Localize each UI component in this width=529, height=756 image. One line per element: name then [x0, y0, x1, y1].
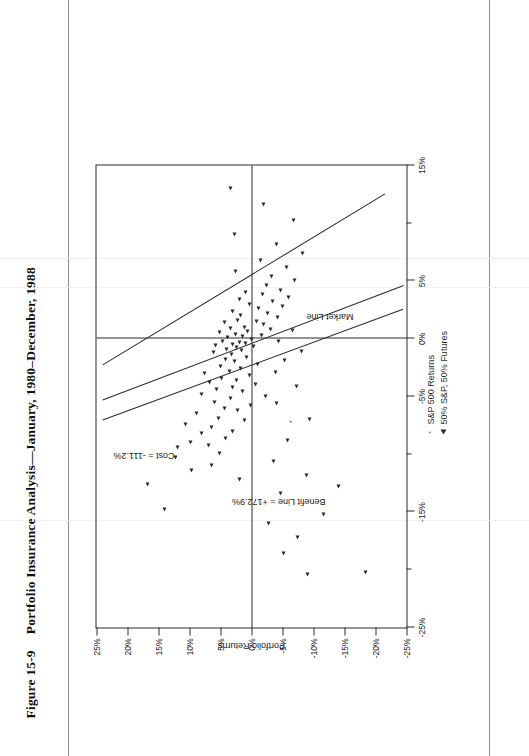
- data-point-marker: [299, 349, 303, 353]
- data-point-marker: [183, 422, 187, 426]
- data-point-marker: [145, 482, 149, 486]
- data-point-marker: [237, 340, 241, 344]
- legend-item-5050: 50% S&P, 50% Futures: [436, 331, 449, 440]
- x-axis-tick-label: 5%: [416, 274, 426, 286]
- y-axis-tick: [406, 627, 407, 635]
- data-point-marker: [300, 251, 304, 255]
- chart-annotation: Cost = -111.2%: [113, 450, 174, 460]
- x-axis-tick: [406, 164, 414, 165]
- data-point-marker: [206, 443, 210, 447]
- legend-label-5050: 50% S&P, 50% Futures: [438, 331, 448, 424]
- y-axis-zero-line: [251, 165, 252, 627]
- y-axis-tick: [127, 627, 128, 635]
- y-axis-tick: [220, 627, 221, 635]
- figure-number: Figure 15-9: [22, 650, 37, 718]
- data-point-marker: [253, 382, 257, 386]
- data-point-marker: [269, 274, 273, 278]
- data-point-marker: [321, 512, 325, 516]
- data-point-marker: [202, 371, 206, 375]
- data-point-marker: [238, 313, 242, 317]
- data-point-marker: [295, 535, 299, 539]
- data-point-marker: [223, 436, 227, 440]
- data-point-marker: [245, 329, 249, 333]
- data-point-marker: [280, 304, 284, 308]
- data-point-marker: [260, 292, 264, 296]
- data-point-marker: [363, 570, 367, 574]
- data-point-marker: [216, 416, 220, 420]
- data-point-marker: [240, 389, 244, 393]
- data-point-marker: [237, 297, 241, 301]
- data-point-marker: [249, 337, 253, 341]
- chart-legend: S&P 500 Returns 50% S&P, 50% Futures: [423, 331, 449, 440]
- data-point-marker: [276, 339, 280, 343]
- y-axis-tick: [251, 627, 252, 635]
- data-point-marker: [213, 343, 217, 347]
- data-point-marker: [235, 318, 239, 322]
- y-axis-tick-label: 20%: [122, 638, 132, 655]
- chart-annotation: Benefit Line = +172.9%: [232, 496, 326, 506]
- x-axis-tick-label: -15%: [416, 502, 426, 522]
- figure-caption: Figure 15-9Portfolio Insurance Analysis—…: [22, 267, 38, 718]
- data-point-marker: [237, 477, 241, 481]
- data-point-marker: [199, 431, 203, 435]
- data-point-marker: [248, 403, 252, 407]
- data-point-marker: [251, 344, 255, 348]
- x-axis-tick: [406, 337, 414, 338]
- data-point-marker: [220, 339, 224, 343]
- data-point-marker: [214, 387, 218, 391]
- data-point-marker: [256, 306, 260, 310]
- data-point-marker: [270, 299, 274, 303]
- data-point-marker: [199, 392, 203, 396]
- data-point-marker: [230, 342, 234, 346]
- legend-label-sp500: S&P 500 Returns: [425, 355, 435, 424]
- data-point-marker: [232, 232, 236, 236]
- data-point-marker: [223, 357, 227, 361]
- data-point-marker: [289, 421, 291, 423]
- data-point-marker: [307, 417, 311, 421]
- data-point-marker: [217, 451, 221, 455]
- legend-item-sp500: S&P 500 Returns: [423, 331, 436, 440]
- data-point-marker: [268, 327, 272, 331]
- data-point-marker: [233, 332, 237, 336]
- fit-line-market: [102, 193, 385, 365]
- data-point-marker: [218, 364, 222, 368]
- data-point-marker: [242, 325, 246, 329]
- data-point-marker: [230, 429, 234, 433]
- chart-annotation: Market Line: [306, 311, 353, 321]
- data-point-marker: [259, 333, 263, 337]
- data-point-marker: [285, 438, 289, 442]
- data-point-marker: [271, 459, 275, 463]
- data-point-marker: [282, 358, 286, 362]
- figure-rotated-container: Figure 15-9Portfolio Insurance Analysis—…: [0, 0, 529, 756]
- y-axis-tick-label: -10%: [308, 638, 318, 658]
- data-point-marker: [233, 269, 237, 273]
- data-point-marker: [211, 350, 215, 354]
- data-point-marker: [258, 258, 262, 262]
- data-point-marker: [232, 359, 236, 363]
- triangle-marker-icon: [440, 424, 446, 440]
- dot-marker-icon: [429, 424, 431, 440]
- data-point-marker: [292, 279, 296, 283]
- data-point-marker: [229, 352, 233, 356]
- data-point-marker: [247, 302, 251, 306]
- data-point-marker: [228, 396, 232, 400]
- data-point-marker: [261, 202, 265, 206]
- y-axis-tick-label: -5%: [277, 638, 287, 653]
- data-point-marker: [284, 265, 288, 269]
- data-point-marker: [225, 335, 229, 339]
- data-point-marker: [244, 355, 248, 359]
- data-point-marker: [243, 290, 247, 294]
- data-point-marker: [263, 394, 267, 398]
- data-point-marker: [305, 572, 309, 576]
- data-point-marker: [234, 378, 238, 382]
- data-point-marker: [291, 218, 295, 222]
- y-axis-tick-label: -20%: [370, 638, 380, 658]
- data-point-marker: [224, 347, 228, 351]
- data-point-marker: [286, 295, 290, 299]
- y-axis-tick: [313, 627, 314, 635]
- data-point-marker: [162, 507, 166, 511]
- y-axis-tick: [158, 627, 159, 635]
- y-axis-tick: [375, 627, 376, 635]
- data-point-marker: [304, 473, 308, 477]
- data-point-marker: [235, 408, 239, 412]
